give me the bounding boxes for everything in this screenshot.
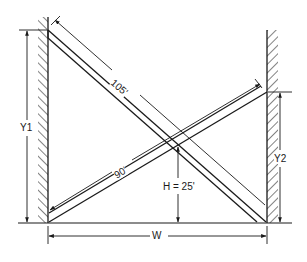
label-height: H = 25': [163, 181, 195, 192]
label-width: W: [152, 230, 161, 241]
ladder-105: [48, 30, 266, 222]
right-wall: [267, 30, 278, 223]
label-y1: Y1: [20, 122, 32, 133]
dimension-105: [51, 16, 265, 205]
label-y2: Y2: [274, 153, 286, 164]
crossed-ladders-diagram: [0, 0, 307, 262]
left-wall: [38, 17, 48, 223]
